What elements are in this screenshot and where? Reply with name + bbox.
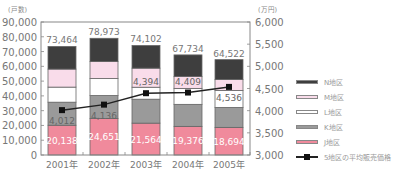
- legend-item-l: L地区: [296, 104, 395, 119]
- line-value-label: 4,536: [216, 93, 242, 103]
- bar-total-label: 64,522: [213, 49, 245, 59]
- bar-total-label: 74,102: [130, 34, 162, 44]
- legend-swatch-k: [296, 125, 318, 129]
- right-tick-label: 4,000: [255, 106, 284, 117]
- x-tick-label: 2004年: [172, 159, 204, 170]
- legend-line-marker-icon: [296, 154, 318, 160]
- x-tick-label: 2003年: [130, 159, 162, 170]
- bar-segment: [90, 38, 118, 61]
- right-axis-unit: (万円): [258, 6, 277, 14]
- legend-label-m: M地区: [324, 92, 344, 102]
- j-value-label: 20,138: [46, 136, 78, 146]
- left-tick-label: 40,000: [2, 91, 37, 102]
- line-marker: [185, 90, 191, 96]
- legend-label-l: L地区: [324, 107, 342, 117]
- bar-segment: [174, 104, 202, 126]
- bar-segment: [48, 69, 76, 87]
- right-axis: (万円)3,0003,5004,0004,5005,0005,5006,000: [247, 6, 284, 161]
- line-marker: [226, 84, 232, 90]
- legend-label-k: K地区: [324, 122, 343, 132]
- left-axis-unit: (戸数): [8, 5, 27, 14]
- bar-segment: [48, 87, 76, 102]
- bar-total-label: 73,464: [46, 35, 78, 45]
- line-marker: [59, 107, 65, 113]
- left-tick-label: 60,000: [2, 61, 37, 72]
- left-tick-label: 30,000: [2, 106, 37, 117]
- bar-segment: [132, 99, 160, 123]
- line-marker: [143, 90, 149, 96]
- j-value-label: 19,376: [172, 136, 204, 146]
- bar-segment: [132, 45, 160, 68]
- j-value-label: 24,651: [88, 132, 120, 142]
- line-value-label: 4,409: [175, 77, 201, 87]
- bar-segment: [48, 46, 76, 69]
- line-value-label: 4,136: [91, 111, 117, 121]
- line-value-label: 4,012: [49, 116, 75, 126]
- bar-total-label: 78,973: [88, 27, 120, 37]
- j-value-label: 21,564: [130, 135, 162, 145]
- legend-swatch-n: [296, 80, 318, 84]
- line-marker: [101, 102, 107, 108]
- right-tick-label: 6,000: [255, 17, 284, 28]
- left-tick-label: 90,000: [2, 17, 37, 28]
- left-tick-label: 80,000: [2, 32, 37, 43]
- x-tick-label: 2002年: [88, 159, 120, 170]
- right-tick-label: 5,000: [255, 61, 284, 72]
- right-tick-label: 3,000: [255, 150, 284, 161]
- legend-item-j: J地区: [296, 134, 395, 149]
- right-tick-label: 4,500: [255, 84, 284, 95]
- x-tick-label: 2001年: [46, 159, 78, 170]
- legend-label-j: J地区: [324, 137, 340, 147]
- legend-swatch-j: [296, 140, 318, 144]
- left-tick-label: 50,000: [2, 76, 37, 87]
- legend-swatch-l: [296, 110, 318, 114]
- right-tick-label: 5,500: [255, 39, 284, 50]
- x-tick-label: 2005年: [213, 159, 245, 170]
- bar-segment: [215, 60, 243, 80]
- left-axis: (戸数)010,00020,00030,00040,00050,00060,00…: [2, 5, 44, 161]
- left-tick-label: 20,000: [2, 120, 37, 131]
- bar-segment: [174, 55, 202, 77]
- bar-segment: [215, 107, 243, 127]
- legend: N地区 M地区 L地区 K地区 J地区 5地区の平均販売価格: [296, 74, 395, 164]
- legend-label-average-price: 5地区の平均販売価格: [324, 152, 391, 162]
- j-value-label: 18,694: [213, 137, 245, 147]
- bar-segment: [90, 79, 118, 96]
- legend-swatch-m: [296, 95, 318, 99]
- left-tick-label: 70,000: [2, 47, 37, 58]
- legend-item-average-price: 5地区の平均販売価格: [296, 149, 395, 164]
- legend-item-m: M地区: [296, 89, 395, 104]
- right-tick-label: 3,500: [255, 128, 284, 139]
- legend-item-k: K地区: [296, 119, 395, 134]
- line-value-label: 4,394: [133, 77, 159, 87]
- bar-segment: [90, 62, 118, 79]
- left-tick-label: 10,000: [2, 135, 37, 146]
- bar-total-label: 67,734: [172, 44, 204, 54]
- left-tick-label: 0: [31, 150, 37, 161]
- legend-item-n: N地区: [296, 74, 395, 89]
- legend-label-n: N地区: [324, 77, 343, 87]
